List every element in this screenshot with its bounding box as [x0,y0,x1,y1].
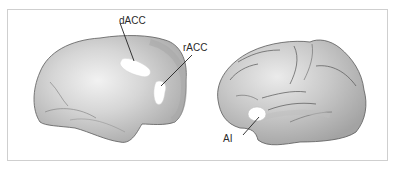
label-AI: AI [223,134,232,144]
brain-illustrations [0,0,397,170]
medial-brain [34,23,192,142]
lateral-brain [218,40,366,145]
label-rACC: rACC [183,43,207,53]
label-dACC: dACC [119,16,146,26]
